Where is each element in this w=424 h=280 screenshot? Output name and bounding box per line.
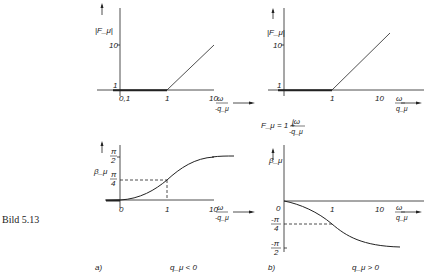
xtick-0: 0 [119,205,124,214]
svg-text:2: 2 [273,248,279,257]
xlabel-den: -q_μ [215,105,229,113]
arrow-up-icon [101,3,104,8]
ylabel-magnitude-a: |F_μ| [95,26,113,35]
xtick-1: 1 [165,94,169,103]
panel-b-label: b) [268,263,275,272]
xlabel-den: q_μ [396,105,408,113]
bode-diagram: |F_μ| 10 1 0,1 1 10 ω -q_μ |F_μ| 10 1 1 … [0,0,424,280]
svg-text:-q_μ: -q_μ [289,128,303,136]
asymptote-rise [332,33,390,90]
arrow-right-icon [249,211,255,214]
xtick-1: 1 [165,205,169,214]
svg-text:-π: -π [271,215,280,224]
xtick-0-1: 0,1 [119,94,130,103]
svg-text:jω: jω [291,117,300,126]
svg-text:4: 4 [111,179,116,188]
panel-a-condition: q_μ < 0 [170,263,197,272]
phase-curve-tail [212,156,234,157]
panel-a-label: a) [95,263,102,272]
svg-text:ω: ω [217,203,223,212]
panel-b-phase [272,145,424,252]
ytick-1: 1 [277,81,281,90]
xtick-1: 1 [330,205,334,214]
arrow-right-icon [416,211,422,214]
arrow-right-icon [416,102,422,105]
xtick-10: 10 [375,94,384,103]
panel-b-condition: q_μ > 0 [352,263,379,272]
ylabel-phase-b: β_μ [268,156,283,165]
arrow-right-icon [249,102,255,105]
asymptote-rise [167,45,214,90]
xtick-10: 10 [375,205,384,214]
ylabel-magnitude-b: |F_μ| [267,28,285,37]
svg-text:ω: ω [396,203,402,212]
transfer-function-formula: F_μ = 1 + jω -q_μ [261,117,305,136]
arrow-up-icon [101,141,104,146]
ytick-10: 10 [109,41,118,50]
panel-a-phase [101,141,215,208]
svg-text:2: 2 [110,156,116,165]
ytick-1: 1 [113,81,117,90]
svg-text:4: 4 [274,224,279,233]
svg-text:q_μ: q_μ [396,214,408,222]
figure-label: Bild 5.13 [2,214,39,225]
arrow-up-icon [272,8,275,13]
svg-text:π: π [111,147,117,156]
arrow-up-icon [272,148,275,153]
ylabel-phase-a: β_μ [93,167,108,176]
panel-b-magnitude [268,8,424,105]
svg-text:-q_μ: -q_μ [215,214,229,222]
xlabel-num: ω [217,94,223,103]
svg-text:-π: -π [271,239,280,248]
xlabel-num: ω [396,94,402,103]
svg-text:π: π [111,170,117,179]
xtick-0: 0 [276,204,281,213]
xtick-1: 1 [330,94,334,103]
ytick-10: 10 [273,41,282,50]
phase-curve [106,157,214,201]
